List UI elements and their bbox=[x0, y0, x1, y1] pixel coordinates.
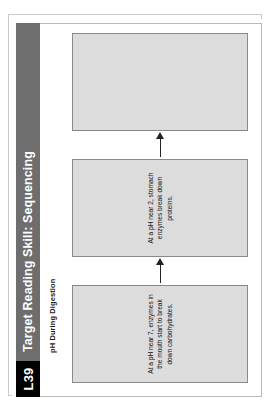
flow-step-text-2: At a pH near 2, stomach enzymes break do… bbox=[146, 168, 175, 248]
rotated-worksheet-stage: L39 Target Reading Skill: Sequencing pH … bbox=[12, 19, 266, 401]
worksheet-page: L39 Target Reading Skill: Sequencing pH … bbox=[0, 0, 278, 420]
arrow-shaft bbox=[160, 138, 161, 157]
sequence-flowchart: At a pH near 7, enzymes in the mouth sta… bbox=[66, 33, 254, 383]
flow-step-box-3[interactable] bbox=[72, 33, 248, 131]
flow-step-box-1[interactable]: At a pH near 7, enzymes in the mouth sta… bbox=[72, 285, 248, 383]
worksheet-content: L39 Target Reading Skill: Sequencing pH … bbox=[12, 19, 266, 401]
arrow-head bbox=[156, 132, 164, 139]
flow-arrow-right-icon-1 bbox=[156, 257, 165, 285]
flow-step-box-2[interactable]: At a pH near 2, stomach enzymes break do… bbox=[72, 159, 248, 257]
arrow-shaft bbox=[160, 264, 161, 283]
flow-step-text-1: At a pH near 7, enzymes in the mouth sta… bbox=[146, 294, 175, 374]
page-title: Target Reading Skill: Sequencing bbox=[16, 23, 40, 361]
worksheet-header: L39 Target Reading Skill: Sequencing bbox=[16, 23, 40, 397]
worksheet-body: pH During Digestion At a pH near 7, enzy… bbox=[40, 23, 262, 397]
chart-subtitle: pH During Digestion bbox=[48, 279, 57, 353]
flow-arrow-right-icon-2 bbox=[156, 131, 165, 159]
lesson-code-badge: L39 bbox=[16, 361, 40, 397]
arrow-head bbox=[156, 258, 164, 265]
